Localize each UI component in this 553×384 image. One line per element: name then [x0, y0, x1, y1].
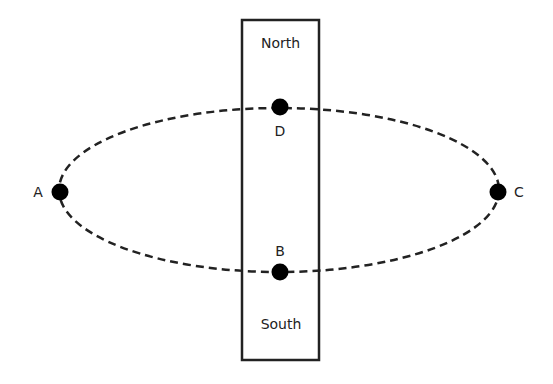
north-label: North: [261, 35, 300, 51]
point-b-label: B: [275, 243, 285, 259]
point-d-marker: [272, 99, 289, 116]
point-a-marker: [52, 184, 69, 201]
point-d-label: D: [275, 123, 286, 139]
point-c-label: C: [514, 184, 524, 200]
point-c-marker: [490, 184, 507, 201]
point-a-label: A: [33, 184, 43, 200]
orbit-diagram: North South D B A C: [0, 0, 553, 384]
point-b-marker: [272, 264, 289, 281]
north-south-box: [242, 20, 319, 360]
south-label: South: [261, 316, 302, 332]
